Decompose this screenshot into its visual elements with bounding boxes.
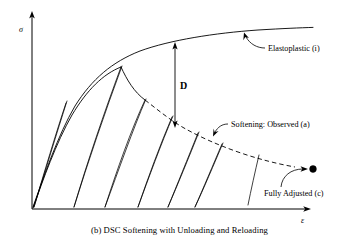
softening-leader	[215, 124, 228, 132]
fully-adjusted-label: Fully Adjusted (c)	[264, 189, 324, 198]
figure-svg: D Elastoplastic (i) Softening: Observed …	[0, 0, 359, 246]
loop-3-reload	[105, 99, 146, 207]
loop-5-reload	[168, 132, 199, 207]
damage-label: D	[180, 80, 187, 91]
elastoplastic-label: Elastoplastic (i)	[268, 44, 320, 53]
elastoplastic-leader	[246, 37, 265, 48]
loop-4-reload	[138, 116, 173, 207]
hysteresis-loops-group	[34, 66, 259, 207]
figure-caption: (b) DSC Softening with Unloading and Rel…	[0, 225, 359, 235]
elastoplastic-annotation-group: Elastoplastic (i)	[243, 33, 320, 54]
fully-adjusted-annotation-group: Fully Adjusted (c)	[264, 166, 324, 198]
dsc-softening-figure: D Elastoplastic (i) Softening: Observed …	[0, 0, 359, 246]
damage-dimension-group: D	[172, 42, 187, 128]
observed-softening-dashed	[145, 100, 295, 167]
loop-1-reload	[34, 101, 67, 207]
softening-label: Softening: Observed (a)	[231, 120, 310, 129]
loop-6-reload	[195, 143, 223, 207]
softening-arrowhead	[213, 129, 219, 137]
loop-2-reload	[74, 66, 122, 207]
fully-adjusted-leader	[281, 169, 303, 187]
x-axis-label: ε	[301, 216, 305, 225]
observed-rising-curve	[33, 67, 121, 208]
observed-peak-descent	[121, 67, 145, 100]
elastoplastic-curve	[33, 27, 313, 207]
fully-adjusted-dot	[310, 166, 317, 173]
final-unload-branch	[248, 155, 259, 205]
elastoplastic-arrowhead	[243, 33, 249, 41]
elastoplastic-curve-group	[33, 27, 313, 207]
softening-annotation-group: Softening: Observed (a)	[213, 120, 310, 137]
y-axis-label: σ	[19, 25, 24, 34]
